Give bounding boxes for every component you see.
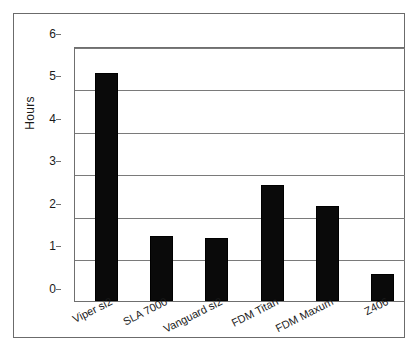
- bar-viper-si2: [95, 73, 118, 301]
- y-tick-mark-0: [56, 289, 61, 290]
- gridline-1: [75, 260, 405, 261]
- gridline-3: [75, 175, 405, 176]
- y-tick-label-6: 6: [34, 28, 56, 40]
- gridline-4: [75, 133, 405, 134]
- gridline-5: [75, 90, 405, 91]
- bar-fdm-maxum: [316, 206, 339, 301]
- bar-fdm-titan: [261, 185, 284, 301]
- gridline-6: [75, 48, 405, 49]
- y-tick-label-3: 3: [34, 155, 56, 167]
- y-tick-mark-2: [56, 204, 61, 205]
- y-tick-mark-5: [56, 76, 61, 77]
- y-tick-mark-4: [56, 119, 61, 120]
- y-tick-label-4: 4: [34, 113, 56, 125]
- y-tick-mark-1: [56, 246, 61, 247]
- y-tick-label-5: 5: [34, 70, 56, 82]
- y-tick-label-1: 1: [34, 240, 56, 252]
- gridline-2: [75, 218, 405, 219]
- y-tick-mark-6: [56, 34, 61, 35]
- chart-outer-frame: Hours 6 5 4 3 2 1 0: [13, 13, 405, 338]
- y-tick-label-0: 0: [34, 283, 56, 295]
- y-tick-mark-3: [56, 161, 61, 162]
- x-tick-label-viper-si2: Viper si2: [24, 296, 114, 349]
- bar-vanguard-si2: [205, 238, 228, 301]
- y-tick-label-2: 2: [34, 198, 56, 210]
- bar-sla-7000: [150, 236, 173, 301]
- plot-area: [74, 47, 404, 302]
- bar-chart-figure: Hours 6 5 4 3 2 1 0: [0, 0, 418, 351]
